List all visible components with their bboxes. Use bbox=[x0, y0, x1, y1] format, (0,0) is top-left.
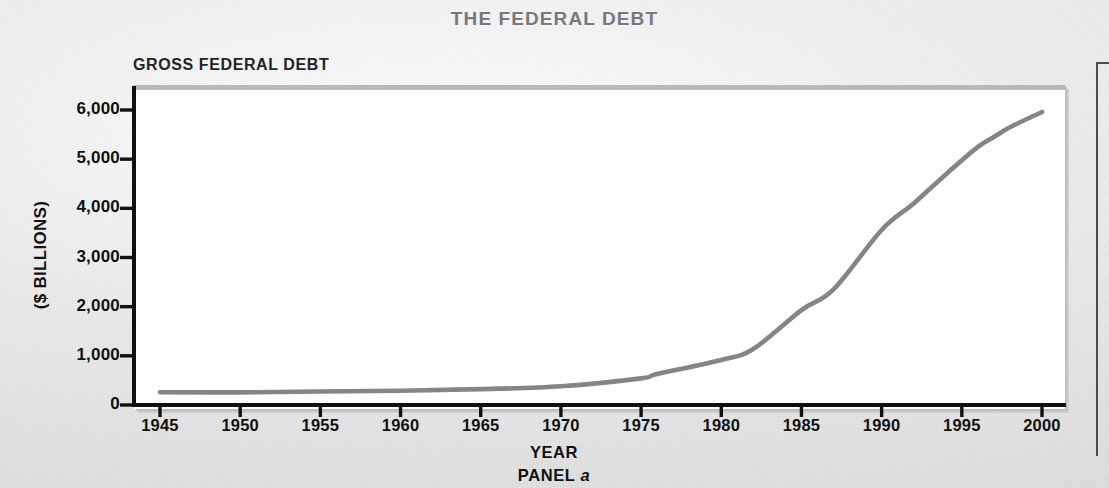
panel-caption: PANEL a bbox=[474, 466, 634, 485]
x-tick-label: 1980 bbox=[676, 416, 766, 435]
y-tick-labels: 01,0002,0003,0004,0005,0006,000 bbox=[10, 0, 120, 488]
x-tick-labels: 1945195019551960196519701975198019851990… bbox=[0, 416, 1109, 442]
x-tick-label: 1970 bbox=[516, 416, 606, 435]
y-tick-label: 6,000 bbox=[20, 99, 120, 119]
x-tick-label: 1960 bbox=[356, 416, 446, 435]
panel-caption-prefix: PANEL bbox=[518, 466, 581, 484]
x-tick-label: 1965 bbox=[436, 416, 526, 435]
x-tick-label: 1990 bbox=[837, 416, 927, 435]
x-tick-label: 1950 bbox=[195, 416, 285, 435]
x-tick-label: 2000 bbox=[997, 416, 1087, 435]
x-tick-label: 1955 bbox=[275, 416, 365, 435]
y-tick-label: 0 bbox=[20, 394, 120, 414]
x-tick-label: 1975 bbox=[596, 416, 686, 435]
x-tick-label: 1945 bbox=[115, 416, 205, 435]
x-tick-label: 1995 bbox=[917, 416, 1007, 435]
chart-canvas bbox=[0, 0, 1109, 488]
adjacent-panel-rule bbox=[1096, 62, 1109, 456]
x-tick-label: 1985 bbox=[756, 416, 846, 435]
x-axis-title: YEAR bbox=[474, 443, 634, 462]
y-tick-label: 1,000 bbox=[20, 345, 120, 365]
y-axis-title: ($ BILLIONS) bbox=[31, 165, 51, 345]
panel-caption-letter: a bbox=[580, 466, 590, 484]
y-tick-marks bbox=[120, 110, 134, 405]
gross-federal-debt-line bbox=[160, 112, 1042, 392]
